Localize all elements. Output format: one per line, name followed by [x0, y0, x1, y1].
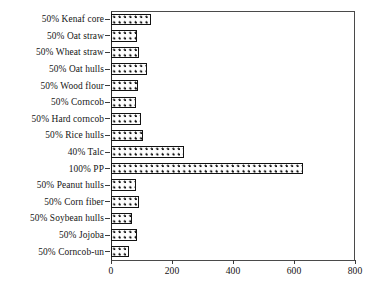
- table-row: 50% Peanut hulls: [0, 177, 379, 193]
- category-tick: [105, 251, 110, 252]
- bar-segment: [111, 246, 129, 258]
- table-row: 40% Talc: [0, 144, 379, 160]
- x-axis-tick: [294, 260, 295, 264]
- category-tick: [105, 152, 110, 153]
- table-row: 50% Soybean hulls: [0, 211, 379, 227]
- bar-segment: [111, 47, 139, 59]
- category-tick: [105, 69, 110, 70]
- category-label: 50% Corncob-un: [0, 247, 104, 257]
- x-axis-tick-label: 600: [287, 265, 301, 276]
- category-tick: [105, 35, 110, 36]
- table-row: 50% Jojoba: [0, 227, 379, 243]
- category-tick: [105, 85, 110, 86]
- table-row: 50% Oat hulls: [0, 61, 379, 77]
- category-label: 50% Jojoba: [0, 230, 104, 240]
- category-tick: [105, 201, 110, 202]
- bar-segment: [111, 179, 136, 191]
- table-row: 50% Kenaf core: [0, 12, 379, 28]
- bar-segment: [111, 196, 139, 208]
- category-tick: [105, 52, 110, 53]
- bar-segment: [111, 163, 303, 175]
- bar-segment: [111, 97, 136, 109]
- bar-segment: [111, 229, 137, 241]
- x-axis-tick: [111, 260, 112, 264]
- category-tick: [105, 168, 110, 169]
- category-tick: [105, 218, 110, 219]
- category-label: 50% Oat hulls: [0, 64, 104, 74]
- table-row: 50% Corncob: [0, 95, 379, 111]
- category-tick: [105, 19, 110, 20]
- x-axis-tick: [355, 260, 356, 264]
- table-row: 50% Oat straw: [0, 28, 379, 44]
- bar-segment: [111, 213, 132, 225]
- category-label: 50% Hard corncob: [0, 114, 104, 124]
- x-axis-tick-label: 400: [226, 265, 240, 276]
- table-row: 50% Wood flour: [0, 78, 379, 94]
- bar-segment: [111, 113, 141, 125]
- bar-segment: [111, 80, 138, 92]
- x-axis: 0 200 400 600 800: [111, 260, 355, 290]
- table-row: 50% Corn fiber: [0, 194, 379, 210]
- x-axis-tick-label: 800: [348, 265, 362, 276]
- category-label: 50% Peanut hulls: [0, 180, 104, 190]
- table-row: 50% Rice hulls: [0, 128, 379, 144]
- category-label: 50% Wheat straw: [0, 47, 104, 57]
- bar-segment: [111, 146, 184, 158]
- category-label: 50% Corncob: [0, 97, 104, 107]
- bar-segment: [111, 30, 137, 42]
- category-label: 40% Talc: [0, 147, 104, 157]
- x-axis-tick: [172, 260, 173, 264]
- table-row: 50% Wheat straw: [0, 45, 379, 61]
- category-label: 50% Corn fiber: [0, 197, 104, 207]
- category-label: 50% Wood flour: [0, 81, 104, 91]
- table-row: 50% Hard corncob: [0, 111, 379, 127]
- bar-segment: [111, 130, 143, 142]
- category-tick: [105, 185, 110, 186]
- category-label: 100% PP: [0, 164, 104, 174]
- table-row: 100% PP: [0, 161, 379, 177]
- bar-chart: 50% Kenaf core 50% Oat straw 50% Wheat s…: [0, 0, 379, 291]
- category-label: 50% Rice hulls: [0, 130, 104, 140]
- x-axis-tick-label: 0: [109, 265, 114, 276]
- category-label: 50% Soybean hulls: [0, 213, 104, 223]
- bar-segment: [111, 63, 147, 75]
- category-tick: [105, 235, 110, 236]
- category-tick: [105, 118, 110, 119]
- category-tick: [105, 135, 110, 136]
- bar-segment: [111, 14, 151, 26]
- category-label: 50% Kenaf core: [0, 14, 104, 24]
- bar-rows: 50% Kenaf core 50% Oat straw 50% Wheat s…: [0, 11, 379, 260]
- table-row: 50% Corncob-un: [0, 244, 379, 260]
- category-label: 50% Oat straw: [0, 31, 104, 41]
- category-tick: [105, 102, 110, 103]
- x-axis-tick-label: 200: [165, 265, 179, 276]
- x-axis-tick: [233, 260, 234, 264]
